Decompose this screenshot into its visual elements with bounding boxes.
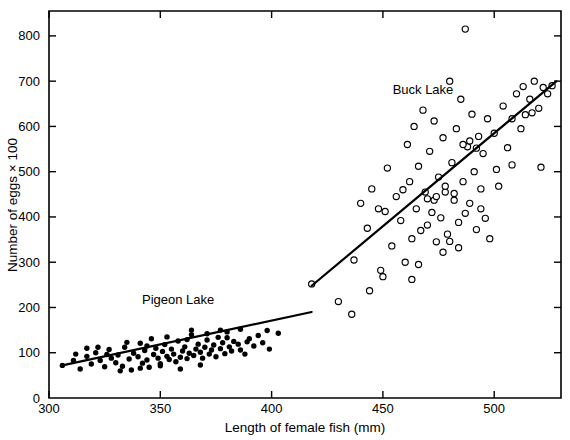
data-point-buck-lake bbox=[496, 183, 502, 189]
data-point-buck-lake bbox=[509, 162, 515, 168]
data-point-buck-lake bbox=[369, 186, 375, 192]
data-point-pigeon-lake bbox=[215, 335, 220, 340]
data-point-buck-lake bbox=[460, 141, 466, 147]
data-point-pigeon-lake bbox=[129, 367, 134, 372]
data-point-buck-lake bbox=[366, 288, 372, 294]
data-point-buck-lake bbox=[382, 208, 388, 214]
data-point-pigeon-lake bbox=[211, 342, 216, 347]
regression-lines-layer bbox=[62, 81, 556, 365]
data-point-pigeon-lake bbox=[171, 351, 176, 356]
data-point-buck-lake bbox=[413, 206, 419, 212]
data-point-pigeon-lake bbox=[222, 351, 227, 356]
data-point-pigeon-lake bbox=[146, 365, 151, 370]
data-point-buck-lake bbox=[482, 215, 488, 221]
regression-line-buck-lake bbox=[312, 81, 557, 286]
y-tick-label: 700 bbox=[18, 74, 40, 89]
y-tick-label: 300 bbox=[18, 255, 40, 270]
data-point-pigeon-lake bbox=[77, 366, 82, 371]
data-point-pigeon-lake bbox=[178, 355, 183, 360]
y-tick-label: 600 bbox=[18, 119, 40, 134]
data-point-buck-lake bbox=[378, 267, 384, 273]
y-tick-label: 200 bbox=[18, 300, 40, 315]
data-point-buck-lake bbox=[504, 145, 510, 151]
y-tick-label: 400 bbox=[18, 209, 40, 224]
data-point-buck-lake bbox=[476, 133, 482, 139]
data-point-buck-lake bbox=[424, 196, 430, 202]
data-point-buck-lake bbox=[538, 164, 544, 170]
data-point-pigeon-lake bbox=[95, 345, 100, 350]
data-point-pigeon-lake bbox=[184, 356, 189, 361]
data-point-pigeon-lake bbox=[138, 365, 143, 370]
data-point-buck-lake bbox=[427, 148, 433, 154]
data-point-pigeon-lake bbox=[220, 340, 225, 345]
data-point-pigeon-lake bbox=[193, 346, 198, 351]
data-point-pigeon-lake bbox=[160, 349, 165, 354]
data-point-buck-lake bbox=[418, 227, 424, 233]
data-point-pigeon-lake bbox=[182, 344, 187, 349]
data-point-buck-lake bbox=[484, 116, 490, 122]
data-point-buck-lake bbox=[415, 261, 421, 267]
data-point-pigeon-lake bbox=[144, 357, 149, 362]
data-point-pigeon-lake bbox=[195, 341, 200, 346]
y-tick-label: 0 bbox=[33, 391, 40, 406]
data-point-buck-lake bbox=[424, 222, 430, 228]
data-point-pigeon-lake bbox=[204, 337, 209, 342]
data-point-buck-lake bbox=[442, 189, 448, 195]
data-point-pigeon-lake bbox=[224, 335, 229, 340]
data-point-pigeon-lake bbox=[267, 346, 272, 351]
data-point-pigeon-lake bbox=[167, 357, 172, 362]
data-point-buck-lake bbox=[440, 249, 446, 255]
data-point-pigeon-lake bbox=[84, 346, 89, 351]
data-point-buck-lake bbox=[467, 200, 473, 206]
data-point-buck-lake bbox=[460, 179, 466, 185]
data-point-pigeon-lake bbox=[244, 339, 249, 344]
data-point-buck-lake bbox=[478, 186, 484, 192]
data-point-buck-lake bbox=[404, 141, 410, 147]
data-point-pigeon-lake bbox=[89, 361, 94, 366]
x-axis-title: Length of female fish (mm) bbox=[225, 420, 386, 435]
data-point-pigeon-lake bbox=[264, 328, 269, 333]
x-tick-label: 400 bbox=[261, 401, 283, 416]
data-point-buck-lake bbox=[536, 105, 542, 111]
data-point-pigeon-lake bbox=[106, 347, 111, 352]
data-point-pigeon-lake bbox=[140, 360, 145, 365]
data-point-buck-lake bbox=[433, 239, 439, 245]
data-point-buck-lake bbox=[451, 190, 457, 196]
data-point-buck-lake bbox=[456, 245, 462, 251]
y-tick-label: 100 bbox=[18, 345, 40, 360]
data-point-buck-lake bbox=[409, 236, 415, 242]
data-point-pigeon-lake bbox=[229, 348, 234, 353]
data-point-buck-lake bbox=[473, 227, 479, 233]
data-point-pigeon-lake bbox=[149, 336, 154, 341]
data-point-buck-lake bbox=[431, 118, 437, 124]
data-point-pigeon-lake bbox=[73, 351, 78, 356]
data-point-buck-lake bbox=[420, 107, 426, 113]
y-axis-title: Number of eggs × 100 bbox=[5, 138, 20, 272]
data-point-buck-lake bbox=[335, 298, 341, 304]
data-point-pigeon-lake bbox=[213, 354, 218, 359]
data-point-pigeon-lake bbox=[138, 341, 143, 346]
data-point-buck-lake bbox=[398, 217, 404, 223]
data-point-pigeon-lake bbox=[84, 354, 89, 359]
data-point-buck-lake bbox=[471, 169, 477, 175]
data-point-pigeon-lake bbox=[118, 368, 123, 373]
data-point-buck-lake bbox=[493, 166, 499, 172]
data-point-pigeon-lake bbox=[135, 354, 140, 359]
data-point-buck-lake bbox=[462, 210, 468, 216]
data-point-buck-lake bbox=[384, 165, 390, 171]
data-point-buck-lake bbox=[380, 274, 386, 280]
data-point-buck-lake bbox=[451, 197, 457, 203]
data-point-pigeon-lake bbox=[173, 359, 178, 364]
data-point-pigeon-lake bbox=[126, 356, 131, 361]
data-points-layer bbox=[60, 26, 556, 374]
y-tick-label: 800 bbox=[18, 28, 40, 43]
x-tick-label: 500 bbox=[483, 401, 505, 416]
x-tick-label: 350 bbox=[149, 401, 171, 416]
data-point-buck-lake bbox=[449, 160, 455, 166]
series-label: Buck Lake bbox=[393, 82, 454, 97]
data-point-pigeon-lake bbox=[155, 355, 160, 360]
data-point-buck-lake bbox=[442, 183, 448, 189]
data-point-pigeon-lake bbox=[256, 333, 261, 338]
data-point-pigeon-lake bbox=[113, 360, 118, 365]
data-point-buck-lake bbox=[402, 259, 408, 265]
